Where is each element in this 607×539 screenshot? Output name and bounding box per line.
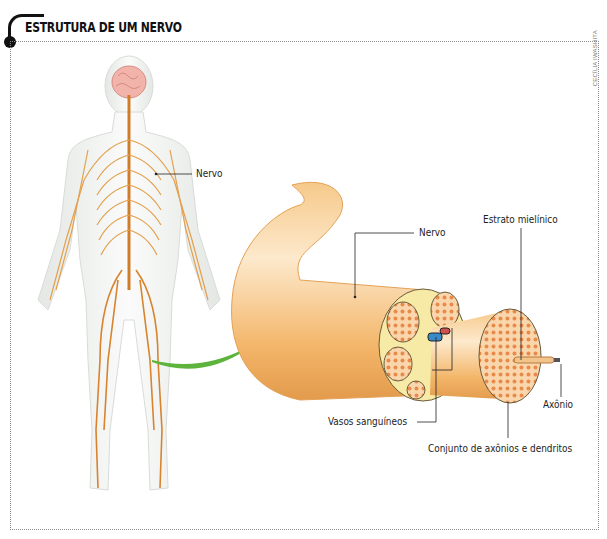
label-nerve: Nervo (419, 226, 446, 239)
human-body-figure (38, 56, 220, 490)
nerve-illustration (0, 0, 607, 539)
label-axon-dendrite-bundle: Conjunto de axônios e dendritos (428, 442, 572, 455)
label-body-nerve: Nervo (196, 167, 223, 180)
label-myelin-layer: Estrato mielínico (483, 213, 558, 226)
label-blood-vessels: Vasos sanguíneos (328, 415, 407, 428)
label-axon: Axônio (543, 398, 573, 411)
